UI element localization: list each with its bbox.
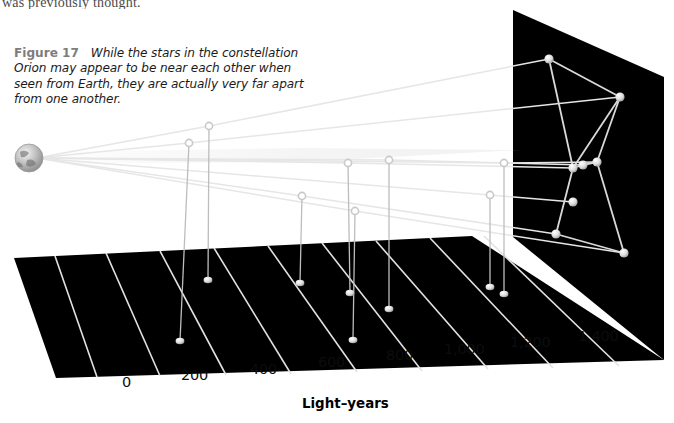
ground-marker-belt-star-mintaka	[500, 291, 509, 297]
space-node-belt-star-alnilam	[385, 156, 392, 163]
sight-line-saiph	[37, 158, 556, 234]
space-node-bellatrix	[185, 139, 192, 146]
figure-17-container: was previously thought.	[0, 0, 674, 423]
axis-title-light-years: Light–years	[302, 396, 389, 411]
ground-marker-saiph	[296, 280, 305, 286]
axis-tick-200: 200	[181, 367, 208, 383]
ground-marker-belt-star-alnilam	[385, 306, 394, 312]
star-space-nodes	[185, 122, 507, 214]
axis-tick-1400: 1,400	[578, 328, 619, 344]
figure-caption: Figure 17 While the stars in the constel…	[14, 46, 314, 108]
axis-tick-400: 400	[250, 361, 277, 377]
ground-marker-belt-star-alnitak	[346, 290, 355, 296]
space-node-meissa	[486, 191, 493, 198]
space-node-belt-star-mintaka	[500, 159, 507, 166]
star-bellatrix	[615, 92, 624, 101]
ground-marker-bellatrix	[176, 338, 185, 344]
ground-marker-betelgeuse	[204, 277, 213, 283]
star-belt-star-alnitak	[568, 163, 577, 172]
star-rigel	[619, 248, 628, 257]
axis-tick-800: 800	[386, 347, 413, 363]
earth-globe	[15, 144, 43, 172]
figure-number-label: Figure 17	[14, 46, 79, 60]
star-meissa	[568, 197, 577, 206]
space-node-saiph	[298, 192, 305, 199]
ground-marker-rigel	[349, 337, 358, 343]
axis-tick-1200: 1,200	[510, 334, 551, 350]
axis-tick-0: 0	[122, 374, 131, 390]
space-node-rigel	[351, 207, 358, 214]
star-saiph	[551, 229, 560, 238]
star-betelgeuse	[544, 54, 553, 63]
axis-tick-1000: 1,000	[444, 341, 485, 357]
star-belt-star-mintaka	[592, 157, 601, 166]
ground-marker-meissa	[486, 284, 495, 290]
space-node-betelgeuse	[205, 122, 212, 129]
axis-tick-600: 600	[318, 354, 345, 370]
space-node-belt-star-alnitak	[344, 159, 351, 166]
star-belt-star-alnilam	[578, 160, 587, 169]
